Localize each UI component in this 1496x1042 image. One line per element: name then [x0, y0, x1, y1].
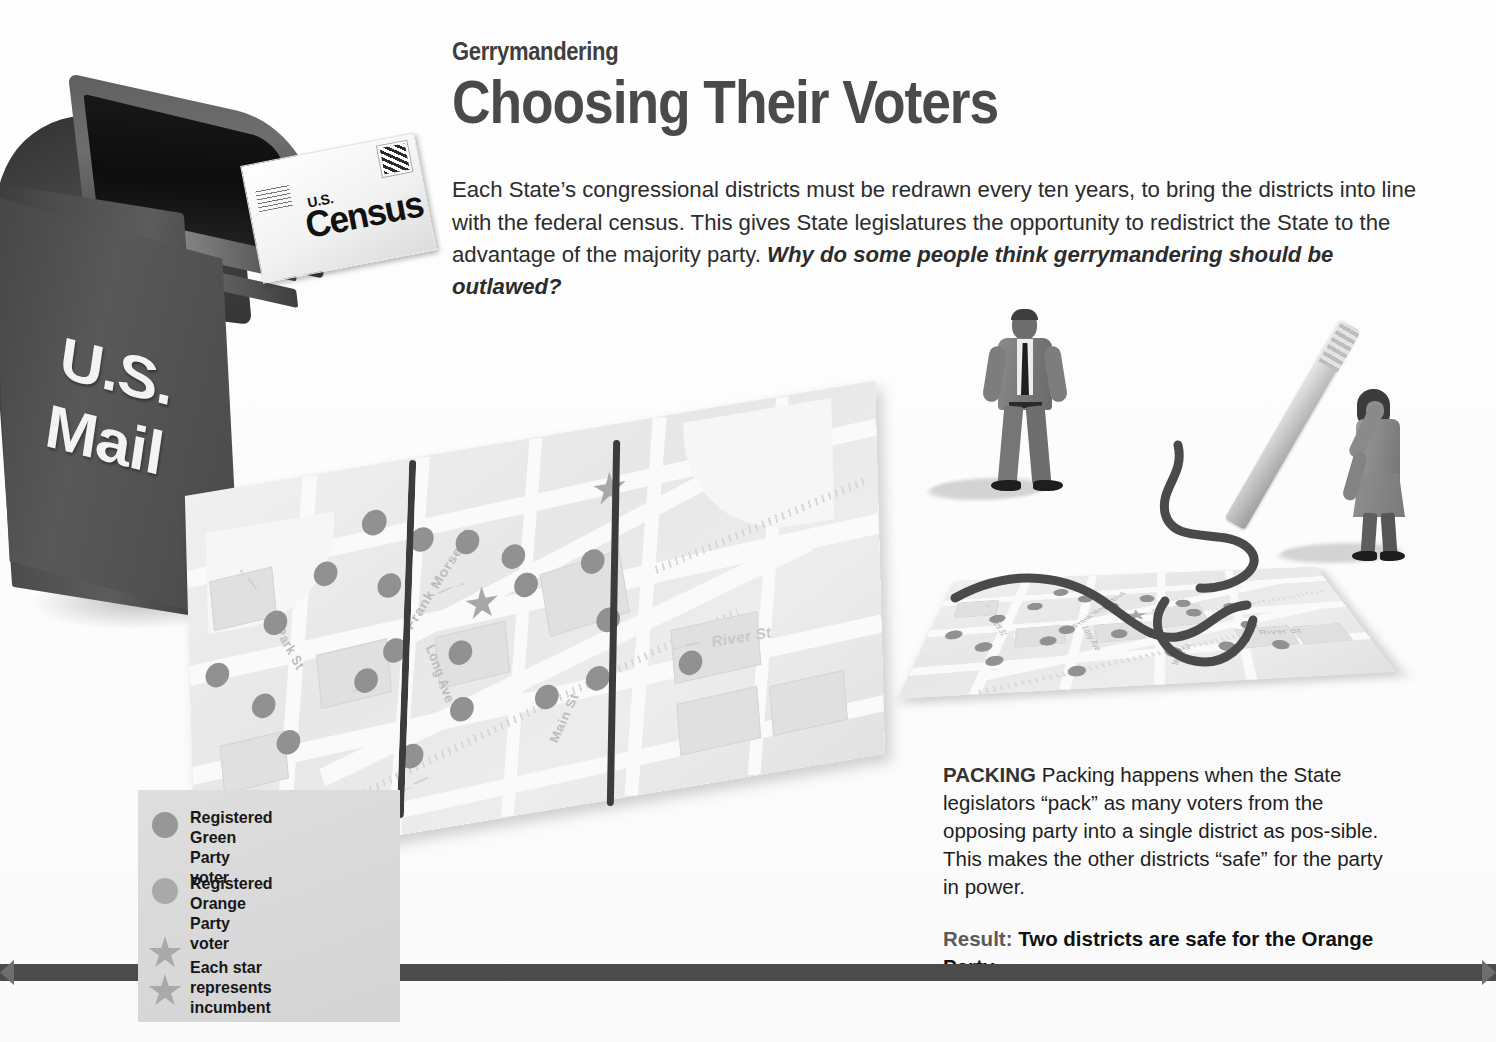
- man-hair: [1011, 309, 1038, 320]
- man-shoe-left: [991, 480, 1021, 491]
- star-icon-upper: [148, 936, 182, 970]
- article-deck: Each State’s congressional districts mus…: [452, 174, 1432, 304]
- star-icon-lower: [148, 974, 182, 1008]
- legend-label-orange: Registered Orange Party voter: [190, 874, 273, 954]
- voter-dot: [377, 571, 401, 599]
- dot-green-icon: [152, 812, 178, 838]
- man-shoe-right: [1033, 480, 1063, 491]
- return-address-lines-icon: [255, 184, 293, 212]
- man-leg-right: [1026, 405, 1052, 484]
- voter-dot: [252, 692, 276, 720]
- road-vertical-3: [501, 438, 542, 817]
- woman-shoe-right: [1380, 551, 1405, 561]
- packing-explainer: PACKING Packing happens when the State l…: [943, 740, 1391, 1001]
- map-legend: Registered Green Party voter Registered …: [138, 790, 400, 1022]
- packing-paragraph: PACKING Packing happens when the State l…: [943, 761, 1391, 901]
- repacked-district-map: Park St Frank Morse Blvd Long Ave Main S…: [905, 435, 1415, 700]
- postage-stamp-icon: [377, 141, 412, 177]
- result-label: Result:: [943, 927, 1012, 950]
- woman-leg-right: [1381, 513, 1398, 556]
- page-title: Choosing Their Voters: [452, 70, 1312, 133]
- city-block: [676, 686, 761, 756]
- woman-shoe-left: [1352, 551, 1377, 561]
- poster-page: U.S. Mail U.S. Census Gerrymandering Cho…: [0, 0, 1496, 1042]
- man-leg-left: [998, 405, 1024, 484]
- article-kicker: Gerrymandering: [452, 38, 1332, 66]
- city-block: [769, 670, 848, 737]
- voter-dot: [535, 683, 559, 711]
- legislator-man: [985, 310, 1075, 500]
- legislator-woman: [1340, 385, 1435, 565]
- article-header: Gerrymandering Choosing Their Voters Eac…: [452, 38, 1452, 326]
- packing-lead-label: PACKING: [943, 763, 1036, 786]
- dot-orange-icon: [152, 878, 178, 904]
- original-district-map: Park St Frank Morse Bl Long Ave Main St …: [185, 440, 885, 840]
- woman-leg-left: [1361, 513, 1378, 556]
- legend-label-incumbent: Each star represents incumbent: [190, 958, 272, 1018]
